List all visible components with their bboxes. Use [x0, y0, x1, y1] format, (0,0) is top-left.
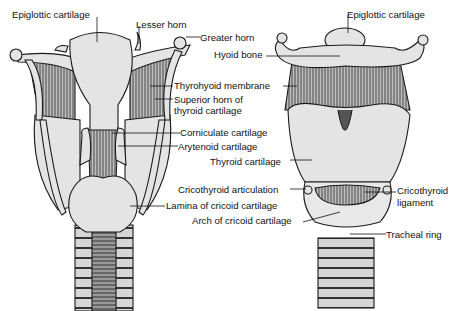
label-superior-horn-line2: thyroid cartilage: [174, 105, 242, 116]
label-arytenoid-cartilage: Arytenoid cartilage: [178, 141, 257, 152]
posterior-view: [10, 32, 190, 311]
label-cricothyroid-ligament-line1: Cricothyroid: [397, 185, 448, 196]
label-cricothyroid-articulation: Cricothyroid articulation: [178, 184, 278, 195]
label-arch-of-cricoid-cartilage: Arch of cricoid cartilage: [192, 215, 292, 226]
label-superior-horn-line1: Superior horn of: [174, 94, 243, 105]
label-hyoid-bone: Hyoid bone: [214, 49, 263, 60]
label-corniculate-cartilage: Corniculate cartilage: [180, 127, 267, 138]
label-lesser-horn: Lesser horn: [136, 19, 187, 30]
label-epiglottic-cartilage-anterior: Epiglottic cartilage: [347, 9, 425, 20]
label-tracheal-ring: Tracheal ring: [386, 229, 442, 240]
label-epiglottic-cartilage-posterior: Epiglottic cartilage: [12, 9, 90, 20]
label-thyroid-cartilage: Thyroid cartilage: [210, 156, 281, 167]
label-thyrohyoid-membrane: Thyrohyoid membrane: [174, 80, 270, 91]
label-greater-horn: Greater horn: [200, 32, 254, 43]
larynx-diagram: Epiglottic cartilage Lesser horn Greater…: [0, 0, 465, 311]
label-cricothyroid-ligament-line2: ligament: [397, 197, 433, 208]
anterior-view: [275, 28, 428, 308]
label-lamina-of-cricoid-cartilage: Lamina of cricoid cartilage: [166, 200, 277, 211]
